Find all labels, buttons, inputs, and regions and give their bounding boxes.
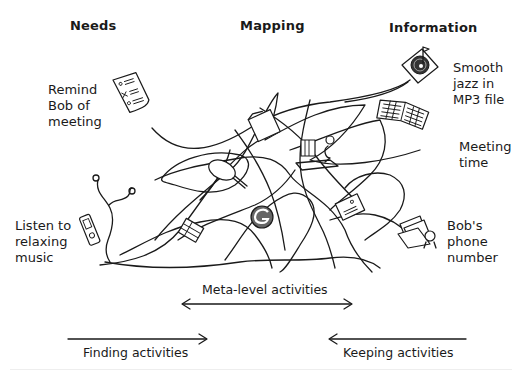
music-connector-line [345,82,408,102]
address-papers-icon [398,216,436,248]
calendar-icon [376,96,430,129]
person-at-desk-icon [296,136,338,170]
meta-level-arrow [182,299,352,309]
search-engine-g-icon [251,206,273,228]
diagram-canvas [0,0,522,375]
mapping-tangle [100,80,420,272]
mp3-player-icon [79,175,135,262]
document-icon [335,194,364,220]
bottom-divider [10,369,512,370]
finding-arrow [68,334,207,344]
music-disc-icon [402,47,438,83]
checklist-document-icon [113,71,151,114]
keeping-arrow [329,334,466,344]
folder-icon [247,107,281,142]
